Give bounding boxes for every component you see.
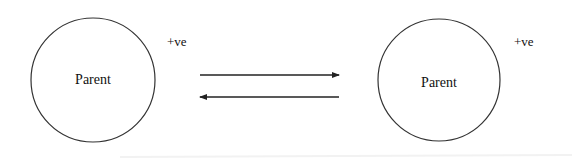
diagram-canvas: Parent +ve Parent +ve (0, 0, 572, 160)
left-parent-label: Parent (75, 72, 111, 87)
right-parent-node: Parent +ve (378, 19, 534, 141)
bottom-shadow-line (120, 155, 572, 157)
left-charge-label: +ve (167, 34, 187, 49)
right-charge-label: +ve (514, 34, 534, 49)
right-parent-label: Parent (421, 75, 457, 90)
left-parent-node: Parent +ve (31, 18, 187, 142)
